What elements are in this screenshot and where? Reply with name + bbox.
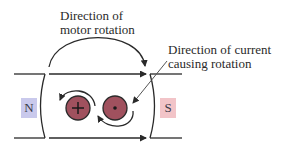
diagram-graphics — [0, 0, 287, 149]
motor-rotation-label: Direction of motor rotation — [60, 9, 135, 37]
current-direction-label: Direction of current causing rotation — [168, 43, 271, 71]
motor-label-line2: motor rotation — [60, 23, 135, 37]
motor-rotation-arrow — [49, 38, 145, 67]
current-label-line1: Direction of current — [168, 43, 271, 57]
south-pole-text: S — [164, 100, 171, 116]
current-label-line2: causing rotation — [168, 57, 271, 71]
motor-label-line1: Direction of — [60, 9, 135, 23]
magnetic-field-arrows — [49, 74, 146, 138]
conductor-into-page — [66, 96, 90, 120]
motor-diagram: Direction of motor rotation Direction of… — [0, 0, 287, 149]
north-pole-text: N — [24, 100, 33, 116]
north-pole-label: N — [21, 98, 37, 118]
dot-icon — [113, 106, 117, 110]
conductor-out-of-page — [103, 96, 127, 120]
south-pole-label: S — [160, 98, 176, 118]
current-label-pointer — [133, 61, 167, 103]
